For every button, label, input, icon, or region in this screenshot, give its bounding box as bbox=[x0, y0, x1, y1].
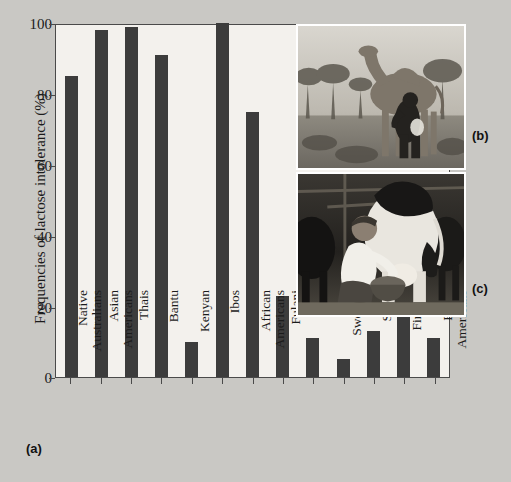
y-tick-mark-0 bbox=[49, 378, 55, 379]
x-tick-label: Bantu bbox=[167, 290, 181, 386]
x-tick-label: Kenyan bbox=[198, 290, 212, 386]
cow-milking-photo bbox=[296, 172, 466, 317]
panel-label-b: (b) bbox=[472, 128, 489, 143]
x-tick-mark bbox=[283, 378, 284, 384]
x-tick-mark bbox=[344, 378, 345, 384]
x-tick-label: Asian Americans bbox=[107, 290, 135, 386]
x-tick-mark bbox=[101, 378, 102, 384]
x-tick-mark bbox=[161, 378, 162, 384]
bar bbox=[216, 23, 229, 377]
y-tick-label-0: 0 bbox=[12, 370, 52, 387]
y-axis-title: Frequencies of lactose intolerance (%) bbox=[32, 19, 49, 399]
x-tick-label: Ibos bbox=[228, 290, 242, 386]
y-tick-label-40: 40 bbox=[12, 229, 52, 246]
x-tick-label: Thais bbox=[137, 290, 151, 386]
bar bbox=[306, 338, 319, 377]
x-tick-mark bbox=[253, 378, 254, 384]
bar bbox=[246, 112, 259, 378]
x-tick-label: Native Australians bbox=[76, 290, 104, 386]
panel-label-c: (c) bbox=[472, 281, 488, 296]
bar bbox=[427, 338, 440, 377]
y-tick-label-80: 80 bbox=[12, 87, 52, 104]
x-tick-label: African Americans bbox=[259, 290, 287, 386]
bar bbox=[337, 359, 350, 377]
x-tick-mark bbox=[131, 378, 132, 384]
bar bbox=[185, 342, 198, 377]
y-tick-label-20: 20 bbox=[12, 300, 52, 317]
x-tick-mark bbox=[374, 378, 375, 384]
x-tick-mark bbox=[313, 378, 314, 384]
bar bbox=[367, 331, 380, 377]
x-tick-mark bbox=[404, 378, 405, 384]
panel-label-a: (a) bbox=[26, 441, 42, 456]
x-tick-mark bbox=[222, 378, 223, 384]
x-tick-mark bbox=[70, 378, 71, 384]
figure-lactose-intolerance: Frequencies of lactose intolerance (%) 1… bbox=[0, 0, 511, 482]
y-tick-label-60: 60 bbox=[12, 158, 52, 175]
x-tick-mark bbox=[192, 378, 193, 384]
x-tick-mark bbox=[435, 378, 436, 384]
camel-milking-photo bbox=[296, 24, 466, 170]
y-tick-label-100: 100 bbox=[12, 16, 52, 33]
